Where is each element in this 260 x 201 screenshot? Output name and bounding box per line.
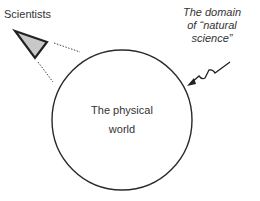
domain-label: The domain of “natural science” — [177, 6, 247, 45]
squiggle-arrow-icon — [187, 62, 230, 86]
scientist-eye-icon — [15, 31, 47, 58]
sightline-lower — [38, 62, 53, 82]
domain-label-line3: science” — [177, 32, 247, 45]
sightline-upper — [54, 43, 80, 52]
domain-label-line2: of “natural — [177, 19, 247, 32]
physical-world-label: The physical world — [82, 104, 162, 136]
world-label-line2: world — [82, 123, 162, 136]
scientists-label: Scientists — [4, 8, 51, 21]
world-label-line1: The physical — [82, 104, 162, 117]
domain-label-line1: The domain — [177, 6, 247, 19]
